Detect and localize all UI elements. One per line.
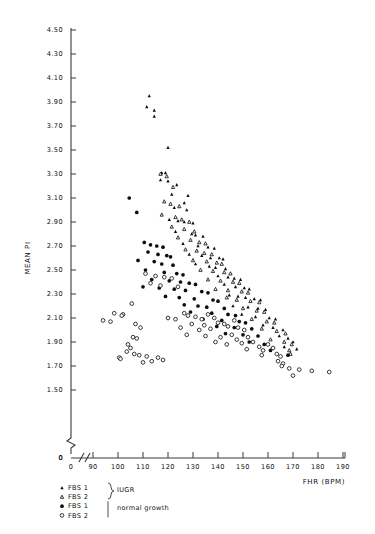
data-point xyxy=(160,262,164,266)
data-point xyxy=(174,230,177,233)
data-point xyxy=(262,343,266,347)
data-point xyxy=(176,285,180,289)
data-point xyxy=(286,337,289,340)
data-point xyxy=(199,268,202,271)
data-point xyxy=(215,261,218,264)
data-point xyxy=(271,346,275,350)
data-point xyxy=(141,285,145,289)
data-point xyxy=(192,297,196,301)
data-point xyxy=(170,277,174,281)
data-point xyxy=(218,256,221,259)
data-point xyxy=(173,206,176,209)
data-point xyxy=(203,251,206,254)
data-point xyxy=(226,289,229,292)
data-point xyxy=(142,241,146,245)
data-point xyxy=(223,283,226,286)
x-tick-label: 130 xyxy=(186,463,200,471)
data-point xyxy=(247,340,251,344)
y-tick-label: 1.70 xyxy=(47,362,63,370)
data-point xyxy=(251,340,255,344)
data-point xyxy=(149,243,153,247)
data-point xyxy=(204,334,208,338)
data-point xyxy=(297,368,301,372)
data-point xyxy=(226,275,229,278)
data-points xyxy=(101,94,331,377)
data-point xyxy=(196,244,199,247)
data-point xyxy=(261,349,265,353)
data-point xyxy=(219,279,222,282)
legend-group-iugr: IUGR xyxy=(117,486,135,494)
data-point xyxy=(188,220,191,223)
data-point xyxy=(241,307,244,310)
data-point xyxy=(184,248,187,251)
data-point xyxy=(159,284,163,288)
data-point xyxy=(200,317,204,321)
data-point xyxy=(101,319,105,323)
data-point xyxy=(216,321,220,325)
data-point xyxy=(130,302,134,306)
data-point xyxy=(171,185,174,188)
data-point xyxy=(209,256,212,259)
data-point xyxy=(226,313,230,317)
data-point xyxy=(220,262,223,265)
data-point xyxy=(198,241,201,244)
data-point xyxy=(205,260,208,263)
data-point xyxy=(210,311,214,315)
data-point xyxy=(179,280,183,284)
data-point xyxy=(145,105,148,108)
data-point xyxy=(269,338,272,341)
data-point xyxy=(163,200,166,203)
y-tick-label: 3.50 xyxy=(47,146,63,154)
legend-label: FBS 1 xyxy=(68,484,88,492)
data-point xyxy=(174,317,178,321)
data-point xyxy=(250,327,254,331)
data-point xyxy=(257,345,261,349)
y-tick-label: 3.10 xyxy=(47,194,63,202)
data-point xyxy=(119,357,123,361)
data-point xyxy=(253,297,256,300)
data-point xyxy=(231,304,234,307)
data-point xyxy=(179,326,183,330)
data-point xyxy=(156,356,160,360)
data-point xyxy=(153,109,156,112)
data-point xyxy=(261,323,264,326)
data-point xyxy=(175,272,179,276)
data-point xyxy=(228,293,231,296)
data-point xyxy=(232,326,236,330)
data-point xyxy=(221,257,224,260)
data-point xyxy=(244,296,247,299)
data-point xyxy=(212,316,216,320)
data-point xyxy=(223,271,226,274)
y-tick-label: 2.30 xyxy=(47,290,63,298)
data-point xyxy=(134,322,138,326)
data-point xyxy=(183,227,186,230)
data-point xyxy=(182,303,186,307)
data-point xyxy=(125,350,129,354)
data-point xyxy=(283,345,286,348)
legend-label: FBS 2 xyxy=(68,512,88,520)
scatter-chart: 1.501.701.902.102.302.502.702.903.103.30… xyxy=(0,0,375,534)
data-point xyxy=(265,320,268,323)
data-point xyxy=(131,335,135,339)
data-point xyxy=(273,321,276,324)
data-point xyxy=(240,313,243,316)
data-point xyxy=(137,353,141,357)
data-point xyxy=(160,213,163,216)
data-point xyxy=(135,337,139,341)
data-point xyxy=(284,332,287,335)
data-point xyxy=(135,211,139,215)
data-point xyxy=(254,315,257,318)
data-point xyxy=(271,326,274,329)
x-axis-title: FHR (BPM) xyxy=(303,478,345,486)
x-tick-label: 90 xyxy=(88,463,97,471)
data-point xyxy=(190,322,194,326)
data-point xyxy=(161,358,165,362)
data-point xyxy=(155,244,159,248)
data-point xyxy=(194,283,198,287)
data-point xyxy=(176,236,179,239)
data-point xyxy=(240,341,244,345)
data-point xyxy=(239,278,242,281)
data-point xyxy=(176,219,179,222)
data-point xyxy=(211,269,214,272)
data-point xyxy=(214,287,217,290)
